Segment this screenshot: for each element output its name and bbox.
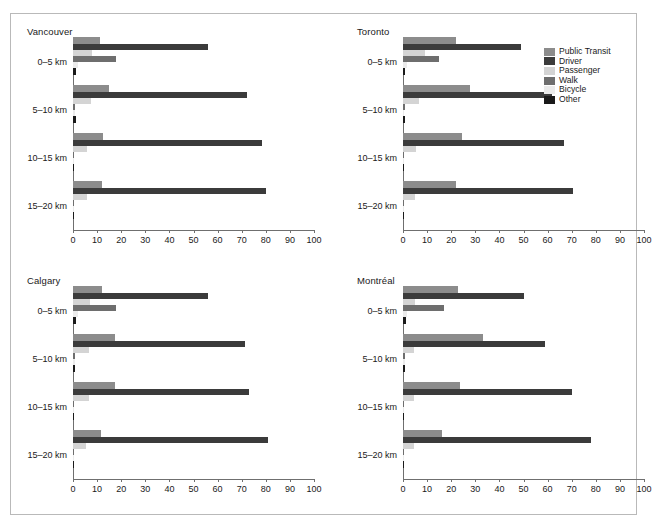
bar <box>73 413 74 419</box>
x-tick <box>242 479 243 482</box>
y-category-label: 15–20 km <box>345 450 397 460</box>
bar <box>73 194 87 200</box>
x-tick-label: 100 <box>636 235 651 245</box>
y-category-label: 15–20 km <box>15 450 67 460</box>
x-tick <box>266 230 267 233</box>
bar <box>403 116 405 122</box>
x-tick <box>145 230 146 233</box>
x-tick-label: 0 <box>70 235 75 245</box>
x-tick <box>596 230 597 233</box>
bar <box>73 212 74 218</box>
y-category-label: 10–15 km <box>15 153 67 163</box>
y-category-label: 10–15 km <box>345 402 397 412</box>
plot-area: 01020304050607080901000–5 km5–10 km10–15… <box>403 287 644 479</box>
x-tick-label: 80 <box>261 235 271 245</box>
x-tick-label: 40 <box>494 235 504 245</box>
x-tick-label: 90 <box>285 235 295 245</box>
x-tick-label: 0 <box>400 484 405 494</box>
x-tick <box>620 479 621 482</box>
x-tick <box>266 479 267 482</box>
bar <box>403 146 416 152</box>
x-tick-label: 70 <box>237 484 247 494</box>
x-tick <box>572 479 573 482</box>
x-tick <box>242 230 243 233</box>
bar <box>403 317 406 323</box>
x-tick-label: 90 <box>615 484 625 494</box>
bar <box>73 98 91 104</box>
x-tick-label: 40 <box>164 235 174 245</box>
bar <box>73 305 116 311</box>
legend-swatch-icon <box>544 57 555 65</box>
x-tick-label: 80 <box>591 484 601 494</box>
bar <box>403 365 405 371</box>
bar <box>403 461 404 467</box>
chart-legend: Public TransitDriverPassengerWalkBicycle… <box>544 47 644 105</box>
x-tick-label: 100 <box>306 235 321 245</box>
x-tick <box>572 230 573 233</box>
x-tick <box>145 479 146 482</box>
legend-swatch-icon <box>544 77 555 85</box>
x-tick <box>499 230 500 233</box>
y-category-label: 0–5 km <box>15 306 67 316</box>
legend-swatch-icon <box>544 48 555 56</box>
x-tick-label: 50 <box>188 484 198 494</box>
panel-title: Montréal <box>357 275 395 286</box>
x-tick-label: 30 <box>470 235 480 245</box>
bar <box>73 317 76 323</box>
x-tick-label: 20 <box>446 235 456 245</box>
bar <box>403 164 404 170</box>
x-tick-label: 70 <box>567 235 577 245</box>
y-category-label: 10–15 km <box>345 153 397 163</box>
x-tick-label: 70 <box>567 484 577 494</box>
x-tick <box>427 479 428 482</box>
legend-swatch-icon <box>544 86 555 94</box>
legend-swatch-icon <box>544 67 555 75</box>
x-tick-label: 100 <box>636 484 651 494</box>
bar <box>73 461 74 467</box>
x-tick-label: 10 <box>422 484 432 494</box>
x-tick-label: 60 <box>543 235 553 245</box>
plot-area: 01020304050607080901000–5 km5–10 km10–15… <box>73 287 314 479</box>
x-tick-label: 10 <box>422 235 432 245</box>
bar <box>73 395 89 401</box>
bar <box>403 212 404 218</box>
x-tick <box>194 230 195 233</box>
bar <box>73 365 75 371</box>
x-tick <box>194 479 195 482</box>
x-tick-label: 90 <box>285 484 295 494</box>
x-tick-label: 50 <box>518 484 528 494</box>
x-tick <box>97 230 98 233</box>
bar <box>73 443 86 449</box>
y-category-label: 15–20 km <box>345 201 397 211</box>
panel-title: Calgary <box>27 275 60 286</box>
bar <box>403 56 439 62</box>
bar <box>73 68 76 74</box>
plot-area: 01020304050607080901000–5 km5–10 km10–15… <box>73 38 314 230</box>
bar <box>73 341 245 347</box>
x-tick-label: 0 <box>70 484 75 494</box>
legend-swatch-icon <box>544 96 555 104</box>
bar <box>73 44 208 50</box>
x-tick-label: 70 <box>237 235 247 245</box>
x-tick-label: 40 <box>494 484 504 494</box>
y-category-label: 15–20 km <box>15 201 67 211</box>
x-tick <box>73 230 74 233</box>
bar <box>403 188 573 194</box>
y-category-label: 5–10 km <box>15 105 67 115</box>
x-tick-label: 50 <box>518 235 528 245</box>
x-tick-label: 20 <box>116 235 126 245</box>
bar <box>403 140 564 146</box>
x-tick-label: 10 <box>92 484 102 494</box>
y-category-label: 10–15 km <box>15 402 67 412</box>
x-tick-label: 60 <box>213 235 223 245</box>
bar <box>403 437 591 443</box>
bar <box>73 164 74 170</box>
chart-panel: Calgary01020304050607080901000–5 km5–10 … <box>11 263 331 508</box>
bar <box>73 437 268 443</box>
legend-item[interactable]: Other <box>544 95 644 105</box>
y-category-label: 5–10 km <box>15 354 67 364</box>
x-tick <box>218 230 219 233</box>
x-tick <box>218 479 219 482</box>
bar <box>403 443 414 449</box>
x-tick <box>121 230 122 233</box>
